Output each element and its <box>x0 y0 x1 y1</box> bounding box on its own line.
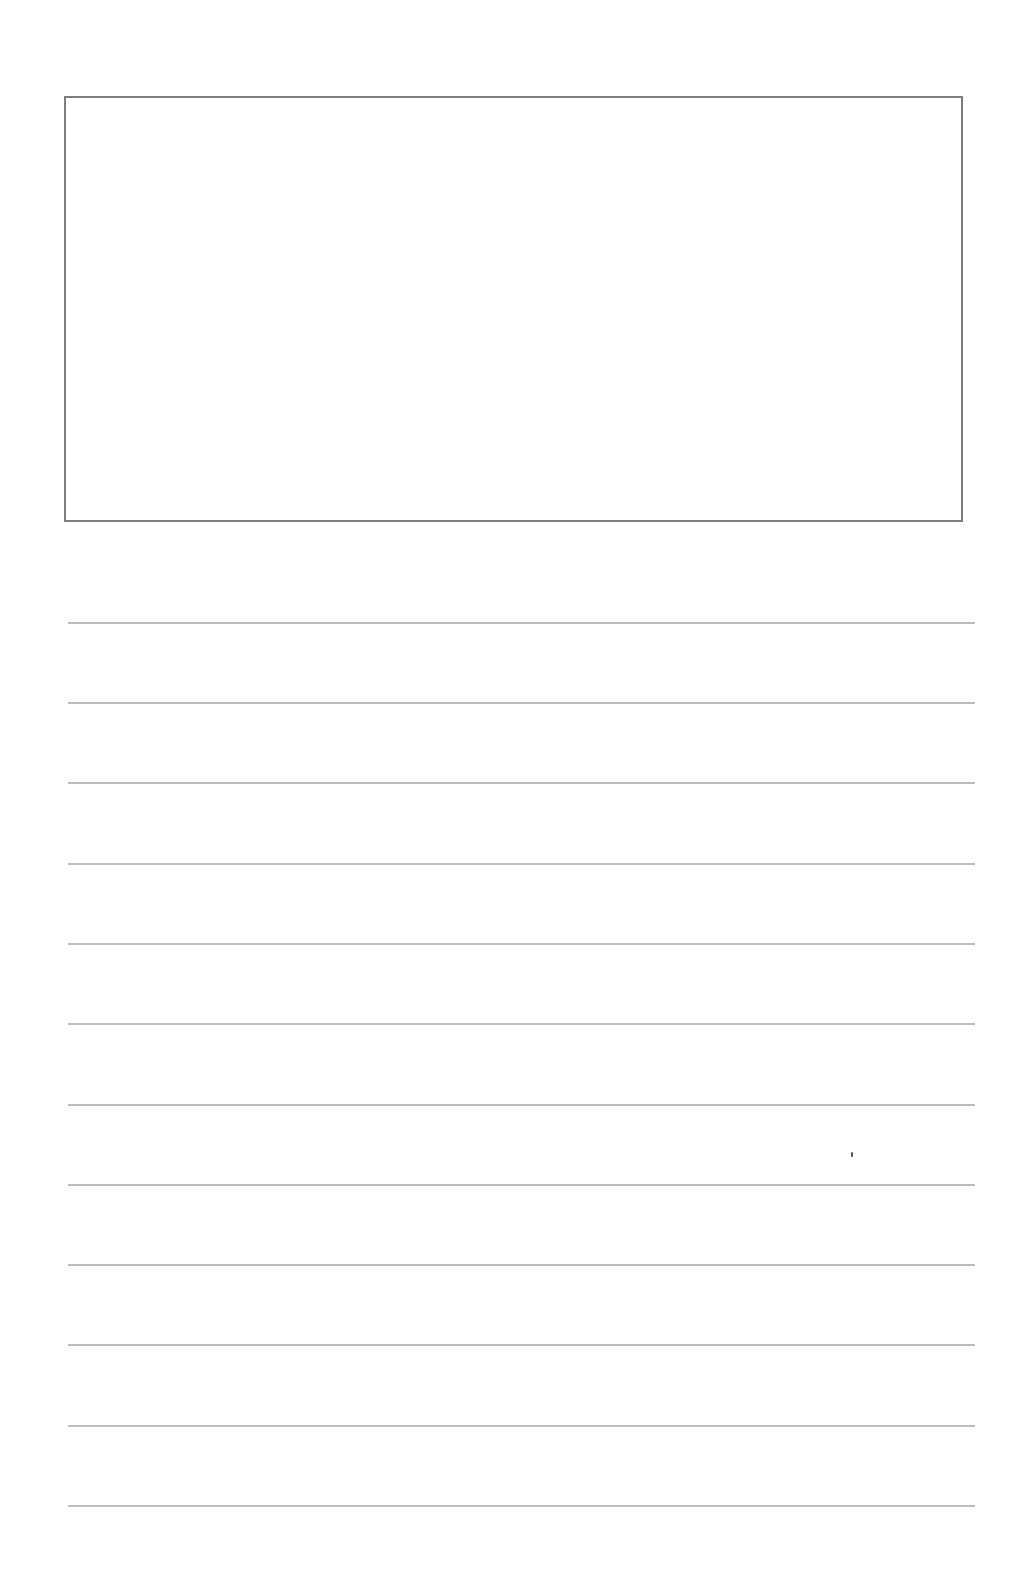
writing-paper-page <box>0 0 1015 1589</box>
ruled-line <box>68 1425 975 1427</box>
ruled-line <box>68 1264 975 1266</box>
ruled-line <box>68 702 975 704</box>
paper-speck <box>851 1152 853 1157</box>
ruled-line <box>68 863 975 865</box>
ruled-line <box>68 1104 975 1106</box>
ruled-line <box>68 622 975 624</box>
ruled-line <box>68 943 975 945</box>
ruled-line <box>68 1184 975 1186</box>
ruled-lines <box>68 0 975 1589</box>
ruled-line <box>68 1505 975 1507</box>
ruled-line <box>68 782 975 784</box>
ruled-line <box>68 1023 975 1025</box>
ruled-line <box>68 1344 975 1346</box>
